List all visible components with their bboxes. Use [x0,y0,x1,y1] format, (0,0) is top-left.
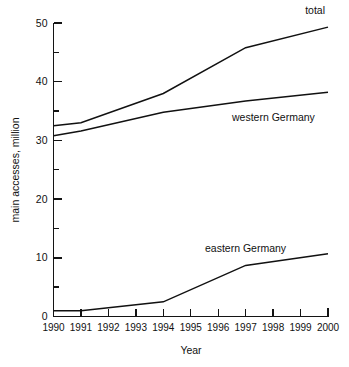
x-tick-label: 1996 [207,322,230,333]
chart-container: 01020304050 1990199119921993199419951996… [0,0,349,367]
series-label-western-germany: western Germany [231,111,316,123]
series-line-eastern-germany [54,254,329,311]
x-tick-label: 1991 [70,322,93,333]
x-tick-label: 1992 [97,322,120,333]
y-tick-label: 30 [36,134,48,146]
series-lines [54,27,329,311]
x-tick-label: 1999 [289,322,312,333]
x-tick-label: 1993 [125,322,148,333]
y-tick-label: 10 [36,251,48,263]
x-tick-label: 1995 [180,322,203,333]
x-tick-label: 2000 [317,322,340,333]
y-tick-label: 0 [42,310,48,322]
line-chart: 01020304050 1990199119921993199419951996… [0,0,349,367]
series-label-total: total [305,4,325,16]
y-tick-label: 50 [36,17,48,29]
y-tick-label: 20 [36,193,48,205]
axes-group [54,23,329,317]
y-axis-ticks: 01020304050 [36,17,62,323]
y-axis-title: main accesses, million [9,117,21,222]
x-tick-label: 1990 [42,322,65,333]
x-axis-ticks: 1990199119921993199419951996199719981999… [42,309,339,333]
x-tick-label: 1997 [235,322,258,333]
x-tick-label: 1998 [262,322,285,333]
series-label-eastern-germany: eastern Germany [205,242,287,254]
x-tick-label: 1994 [152,322,175,333]
y-tick-label: 40 [36,75,48,87]
x-axis-title: Year [180,344,202,356]
